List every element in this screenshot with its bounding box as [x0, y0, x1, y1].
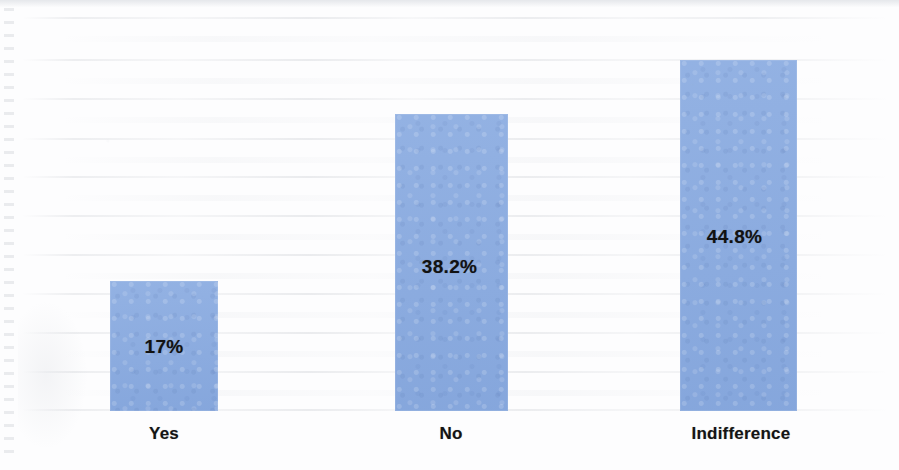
bar-value-no: 38.2%: [393, 256, 506, 278]
plot-area: 17% Yes 38.2% No 44.8% Indifference: [0, 0, 899, 470]
category-label-indifference: Indifference: [676, 424, 806, 444]
bar-value-indifference: 44.8%: [678, 226, 791, 248]
category-label-no: No: [392, 424, 510, 444]
bar-value-yes: 17%: [110, 336, 218, 358]
bar-chart-figure: 17% Yes 38.2% No 44.8% Indifference: [0, 0, 899, 470]
category-label-yes: Yes: [105, 424, 223, 444]
